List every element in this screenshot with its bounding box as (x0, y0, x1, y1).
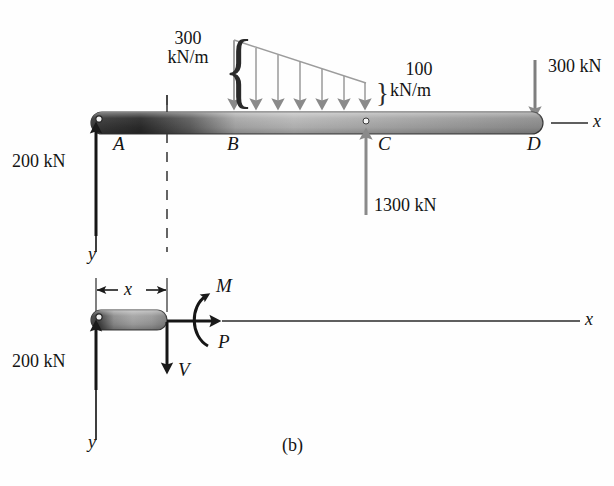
reaction-label-c: 1300 kN (374, 196, 437, 215)
reaction-label-a: 200 kN (12, 152, 66, 171)
point-load-label-d: 300 kN (548, 57, 602, 76)
top-beam-shading (91, 112, 543, 134)
point-label-b: B (227, 134, 239, 155)
beam-figure: 300 kN/m { 100 } kN/m 300 kN A B C D x y… (0, 0, 614, 486)
distributed-load-end-label: 100 (396, 60, 472, 79)
top-y-axis-label: y (88, 245, 96, 264)
point-label-c: C (378, 134, 391, 155)
pin-hole-a-lower (96, 314, 102, 320)
internal-axial-label: P (218, 332, 230, 353)
lower-beam-shading (91, 310, 167, 330)
distributed-load-right-brace: } (376, 80, 389, 107)
distributed-load-end-unit: kN/m (390, 81, 431, 100)
lower-y-axis-label: y (88, 433, 96, 452)
dimension-label-x: x (124, 280, 132, 299)
pin-hole-a (96, 116, 102, 122)
pin-hole-c (363, 118, 369, 124)
reaction-label-a-lower: 200 kN (12, 352, 66, 371)
internal-shear-label: V (178, 360, 190, 381)
distributed-load-start-value: 300 (175, 28, 202, 48)
distributed-load-end-value: 100 (396, 60, 442, 79)
lower-x-axis-label: x (585, 310, 593, 329)
distributed-load-start-label: 300 kN/m (152, 29, 224, 68)
point-label-d: D (527, 134, 541, 155)
lower-beam-segment (91, 310, 167, 330)
point-label-a: A (113, 134, 125, 155)
distributed-load-left-brace: { (224, 26, 254, 112)
figure-caption: (b) (282, 436, 303, 455)
distributed-load-start-unit: kN/m (167, 47, 208, 67)
top-beam (91, 112, 543, 134)
top-x-axis-label: x (593, 112, 601, 131)
internal-moment-label: M (216, 276, 232, 297)
distributed-load-group (234, 40, 366, 107)
beam-diagram-svg (0, 0, 614, 486)
